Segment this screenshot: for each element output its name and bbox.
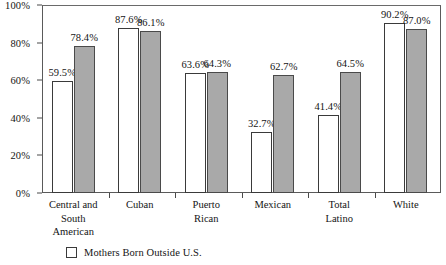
bar-group: 63.6%64.3% xyxy=(175,5,242,193)
y-axis-tick-label: 0% xyxy=(16,188,30,199)
bar-group: 59.5%78.4% xyxy=(42,5,109,193)
y-axis-tick-label: 100% xyxy=(5,0,30,11)
bar-value-label: 86.1% xyxy=(137,17,165,28)
bar-value-label: 41.4% xyxy=(314,101,342,112)
bar-value-label: 78.4% xyxy=(70,32,98,43)
x-axis-category-label: Cuban xyxy=(126,198,153,212)
plot-area: 59.5%78.4%87.6%86.1%63.6%64.3%32.7%62.7%… xyxy=(42,5,441,193)
y-axis-tick-label: 40% xyxy=(10,112,30,123)
x-axis-category-label: Puerto Rican xyxy=(193,198,220,225)
y-axis-labels: 0%20%40%60%80%100% xyxy=(0,0,36,200)
bar-value-label: 32.7% xyxy=(248,118,276,129)
bar-group: 32.7%62.7% xyxy=(242,5,309,193)
y-axis-tick-label: 80% xyxy=(10,37,30,48)
bar-chart: 0%20%40%60%80%100% 59.5%78.4%87.6%86.1%6… xyxy=(0,0,446,265)
y-axis-tick-label: 20% xyxy=(10,150,30,161)
bar-value-label: 64.3% xyxy=(203,58,231,69)
bar-value-label: 87.0% xyxy=(403,15,431,26)
bar-value-label: 62.7% xyxy=(270,61,298,72)
bar xyxy=(74,46,95,193)
bar xyxy=(52,81,73,193)
bar xyxy=(340,72,361,193)
bar-group: 41.4%64.5% xyxy=(308,5,375,193)
bar xyxy=(185,73,206,193)
bar-value-label: 64.5% xyxy=(336,58,364,69)
bar-group: 87.6%86.1% xyxy=(109,5,176,193)
bar xyxy=(384,23,405,193)
x-axis-category-label: White xyxy=(393,198,419,212)
x-axis-category-labels: Central and South AmericanCubanPuerto Ri… xyxy=(42,198,441,242)
x-axis-category-label: Total Latino xyxy=(326,198,353,225)
bar xyxy=(251,132,272,193)
legend-label: Mothers Born Outside U.S. xyxy=(84,247,202,258)
bar xyxy=(140,31,161,193)
x-axis-category-label: Central and South American xyxy=(49,198,98,239)
chart-legend: Mothers Born Outside U.S. xyxy=(66,247,202,258)
bar xyxy=(273,75,294,193)
bar xyxy=(207,72,228,193)
bar-value-label: 59.5% xyxy=(48,67,76,78)
legend-swatch-icon xyxy=(66,247,77,258)
bar xyxy=(318,115,339,193)
bar xyxy=(118,28,139,193)
bar xyxy=(406,29,427,193)
bar-group: 90.2%87.0% xyxy=(375,5,442,193)
y-axis-tick-label: 60% xyxy=(10,75,30,86)
x-axis-category-label: Mexican xyxy=(254,198,291,212)
